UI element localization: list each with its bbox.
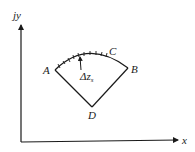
- y-axis-label: jy: [11, 9, 21, 21]
- point-label-D: D: [87, 109, 96, 121]
- segment-label-main: Δz: [79, 70, 91, 82]
- x-axis-label: x: [181, 134, 187, 146]
- segment-pointer-arrow: [80, 57, 81, 70]
- segment-label-subscript: s: [91, 76, 94, 84]
- arc-AB: [55, 53, 128, 70]
- point-label-C: C: [109, 45, 117, 57]
- point-label-B: B: [131, 63, 138, 75]
- side-BD: [92, 68, 128, 107]
- point-label-A: A: [42, 64, 50, 76]
- arc-tick-marks: [58, 51, 107, 68]
- diagram-canvas: jy x A B C D Δzs: [0, 0, 195, 152]
- x-axis: [21, 140, 178, 142]
- segment-label: Δzs: [79, 70, 94, 84]
- diagram-svg: jy x A B C D Δzs: [0, 0, 195, 152]
